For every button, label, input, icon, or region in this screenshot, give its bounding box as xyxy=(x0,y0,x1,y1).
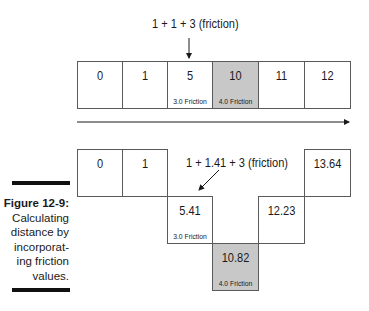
caption-top-bar xyxy=(12,181,70,185)
caption-line: values. xyxy=(4,269,69,284)
figure-caption: Figure 12-9: Calculating distance by inc… xyxy=(4,196,69,283)
caption-line: incorporat- xyxy=(4,240,69,255)
figure-title: Figure 12-9: xyxy=(4,196,69,211)
caption-line: ing friction xyxy=(4,254,69,269)
caption-line: Calculating xyxy=(4,211,69,226)
caption-bottom-bar xyxy=(12,288,70,292)
diagonal-arrow-icon xyxy=(199,170,219,190)
caption-line: distance by xyxy=(4,225,69,240)
